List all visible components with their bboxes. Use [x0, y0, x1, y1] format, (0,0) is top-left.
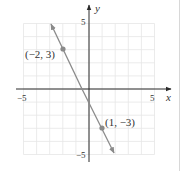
line-y-eq-neg2x-minus1 — [51, 24, 82, 89]
point-label-1-neg3: (1, −3) — [105, 116, 135, 129]
x-axis-label: x — [165, 91, 171, 103]
coordinate-plot: −5 5 5 −5 x y (−2, 3) (1, −3) — [0, 0, 180, 171]
y-tick-min: −5 — [76, 150, 86, 160]
x-tick-min: −5 — [17, 93, 27, 103]
point-1-neg3 — [99, 125, 104, 130]
y-tick-max: 5 — [81, 17, 86, 27]
y-axis-label: y — [94, 2, 100, 14]
point-neg2-3 — [60, 46, 65, 51]
right-border — [179, 0, 180, 171]
x-tick-max: 5 — [150, 93, 155, 103]
point-label-neg2-3: (−2, 3) — [25, 48, 55, 61]
